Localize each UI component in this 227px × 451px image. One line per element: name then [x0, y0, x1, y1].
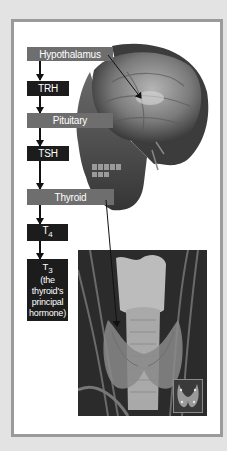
arrow-down-icon — [39, 241, 41, 259]
node-hypothalamus: Hypothalamus — [27, 47, 113, 61]
node-trh: TRH — [27, 81, 69, 96]
arrow-down-icon — [39, 61, 41, 80]
node-label: TRH — [38, 83, 58, 94]
thyroid-inset-thumbnail — [173, 379, 203, 413]
node-thyroid: Thyroid — [27, 189, 114, 205]
arrow-down-icon — [39, 96, 41, 113]
node-tsh: TSH — [27, 146, 69, 161]
arrow-down-icon — [39, 128, 41, 146]
node-label: T4 — [42, 225, 52, 240]
node-t4: T4 — [27, 224, 68, 241]
node-t3: T3 (the thyroid's principal hormone) — [27, 259, 68, 321]
node-label: T3 — [43, 262, 53, 276]
node-label: Thyroid — [55, 192, 87, 203]
node-label: Pituitary — [53, 115, 87, 126]
node-note: (the thyroid's principal hormone) — [28, 275, 67, 318]
node-label: TSH — [38, 148, 57, 159]
node-pituitary: Pituitary — [27, 113, 113, 128]
arrow-down-icon — [39, 161, 41, 189]
node-label: Hypothalamus — [39, 49, 101, 60]
arrow-down-icon — [39, 205, 41, 224]
thyroid-anatomy-image — [78, 250, 207, 416]
